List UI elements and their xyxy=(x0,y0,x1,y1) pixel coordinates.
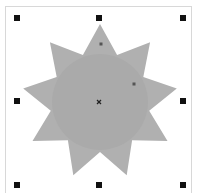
handle-top-center[interactable] xyxy=(96,15,102,21)
inner-node-handle[interactable] xyxy=(133,83,136,86)
handle-middle-right[interactable] xyxy=(180,98,186,104)
inner-circle xyxy=(52,54,148,150)
handle-bottom-right[interactable] xyxy=(180,182,186,188)
star-shape-layer[interactable] xyxy=(0,0,197,193)
handle-top-left[interactable] xyxy=(14,15,20,21)
handle-bottom-left[interactable] xyxy=(14,182,20,188)
handle-middle-left[interactable] xyxy=(14,98,20,104)
handle-bottom-center[interactable] xyxy=(96,182,102,188)
handle-top-right[interactable] xyxy=(180,15,186,21)
outer-node-handle[interactable] xyxy=(100,43,103,46)
